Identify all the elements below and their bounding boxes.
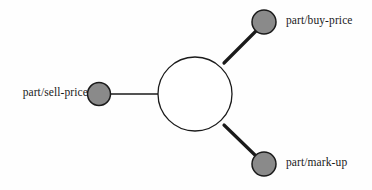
edge-buy-price[interactable] [224,31,256,63]
central-hub-node[interactable] [158,57,232,131]
edge-mark-up[interactable] [224,125,256,156]
diagram-canvas: part/sell-price part/buy-price part/mark… [0,0,372,190]
node-sell-price[interactable] [88,83,111,106]
node-mark-up[interactable] [252,152,276,176]
node-label-sell-price: part/sell-price [23,87,88,99]
node-label-mark-up: part/mark-up [286,157,347,169]
node-buy-price[interactable] [252,10,276,34]
node-label-buy-price: part/buy-price [286,15,353,27]
